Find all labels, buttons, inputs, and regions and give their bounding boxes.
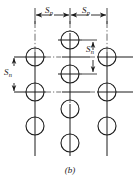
dimension-label-gage-right: Sn (86, 45, 94, 54)
dimension-label-gage-left: Sn (4, 68, 12, 77)
vertical-centerlines (35, 21, 107, 156)
dimension-label-pitch-left: Sp (45, 6, 53, 15)
dimension-label-pitch-right: Sp (82, 6, 90, 15)
figure-caption: (b) (0, 166, 140, 175)
pattern-diagram (0, 0, 140, 183)
figure-container: Sp Sp Sn Sn (b) (0, 0, 140, 183)
